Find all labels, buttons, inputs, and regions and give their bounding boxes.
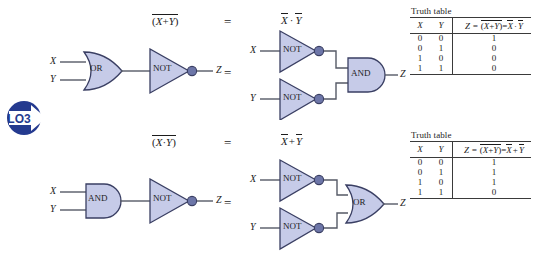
row1-expression-equals: = [224, 14, 231, 30]
figure-canvas: (X+Y) = X·Y X Y OR NOT Z = [0, 0, 543, 257]
row1-right-wire-bottom-route [324, 83, 349, 99]
row2-right-wire-bottom-route [324, 213, 348, 228]
row1-left-input-y-label: Y [50, 73, 56, 84]
row2-th-z-rhs-op: + [512, 145, 519, 155]
row2-not-top-label: NOT [283, 173, 302, 183]
inversion-bubble-icon-bottom [314, 94, 323, 103]
table-row: 0 0 1 [410, 158, 531, 169]
row1-and-gate-label: AND [351, 68, 371, 78]
row2-r3-y: 1 [430, 188, 453, 199]
row2-right-output-label: Z [400, 197, 406, 208]
table-row: 1 1 0 [410, 188, 531, 199]
row1-truth-table: Truth table X Y Z = (X+Y)=X·Y 0 0 1 0 1 … [410, 6, 531, 75]
row2-th-z-rhs-b: Y [519, 144, 524, 155]
row2-th-x: X [410, 142, 430, 158]
row2-r3-x: 1 [410, 188, 430, 199]
inversion-bubble-icon [187, 196, 196, 205]
inversion-bubble-icon-top [314, 46, 323, 55]
row2-right-input-y-label: Y [250, 221, 256, 232]
row1-rexpr-b: Y [295, 13, 301, 26]
row2-th-z: Z = (X+Y)=X+Y [453, 142, 532, 158]
row1-circuit-equals: = [224, 65, 231, 81]
table-row: 1 0 0 [410, 54, 531, 64]
lo3-badge-label: LO3 [7, 112, 31, 126]
row1-th-z-rhs-b: Y [518, 20, 523, 31]
row2-right-circuit: X Y NOT NOT OR Z [250, 157, 400, 256]
row1-right-circuit: X Y NOT NOT AND Z [250, 28, 400, 124]
table-row: 0 1 0 [410, 44, 531, 54]
row1-truth-table-caption: Truth table [410, 6, 531, 17]
row2-right-wire-top-route [324, 180, 348, 195]
row2-th-y: Y [430, 142, 453, 158]
row2-truth-table-grid: X Y Z = (X+Y)=X+Y 0 0 1 0 1 1 1 0 [410, 141, 531, 199]
row1-expr-paren-close: ) [175, 15, 179, 27]
row2-circuit-equals: = [224, 195, 231, 211]
row2-right-expression: X+Y [281, 134, 302, 147]
row1-left-circuit: X Y OR NOT Z [50, 48, 225, 102]
row2-right-input-x-label: X [250, 173, 256, 184]
row2-th-z-rhs-a: X [506, 144, 512, 155]
row2-expr-paren-close: ) [172, 136, 176, 148]
row2-not-gate-label: NOT [153, 193, 172, 203]
row1-right-input-y-label: Y [250, 92, 256, 103]
table-row: 1 0 1 [410, 178, 531, 188]
row2-or-gate-label: OR [353, 197, 366, 207]
row2-truth-table-header-row: X Y Z = (X+Y)=X+Y [410, 142, 531, 158]
row1-or-gate-label: OR [90, 63, 103, 73]
row2-rexpr-op: + [288, 135, 296, 147]
row1-th-x: X [410, 18, 430, 34]
lo3-badge: LO3 [4, 100, 50, 136]
row2-left-input-x-label: X [50, 185, 56, 196]
inversion-bubble-icon-bottom [314, 223, 323, 232]
inversion-bubble-icon [187, 66, 196, 75]
row1-rexpr-op: · [288, 14, 296, 26]
row2-left-output-label: Z [216, 194, 222, 205]
table-row: 1 1 0 [410, 64, 531, 75]
row1-r3-z: 0 [453, 64, 532, 75]
row1-right-wire-top-route [324, 51, 349, 68]
row2-not-bottom-label: NOT [283, 221, 302, 231]
row1-truth-table-header-row: X Y Z = (X+Y)=X·Y [410, 18, 531, 34]
row2-r3-z: 0 [453, 188, 532, 199]
row1-left-output-label: Z [216, 64, 222, 75]
row2-and-gate-label: AND [88, 193, 108, 203]
row1-not-gate-label: NOT [153, 63, 172, 73]
row2-left-circuit: X Y AND NOT Z [50, 178, 225, 232]
row2-left-expression: (X·Y) [152, 135, 176, 148]
row1-not-bottom-label: NOT [283, 92, 302, 102]
inversion-bubble-icon-top [314, 175, 323, 184]
row2-left-input-y-label: Y [50, 203, 56, 214]
row1-not-top-label: NOT [283, 44, 302, 54]
row2-th-z-prefix: Z = [464, 145, 480, 155]
row1-rexpr-a: X [281, 13, 288, 26]
row1-r3-x: 1 [410, 64, 430, 75]
row1-left-expression: (X+Y) [152, 14, 178, 27]
table-row: 0 0 1 [410, 34, 531, 45]
row1-right-output-label: Z [400, 68, 406, 79]
row1-th-y: Y [430, 18, 453, 34]
row2-truth-table: Truth table X Y Z = (X+Y)=X+Y 0 0 1 0 1 … [410, 130, 531, 199]
row2-expression-equals: = [224, 135, 231, 151]
table-row: 0 1 1 [410, 168, 531, 178]
row2-truth-table-caption: Truth table [410, 130, 531, 141]
row2-rexpr-a: X [281, 134, 288, 147]
row1-truth-table-grid: X Y Z = (X+Y)=X·Y 0 0 1 0 1 0 1 0 [410, 17, 531, 75]
row1-left-input-x-label: X [50, 55, 56, 66]
row1-r3-y: 1 [430, 64, 453, 75]
row1-th-z-prefix: Z = [465, 21, 481, 31]
row1-right-input-x-label: X [250, 44, 256, 55]
row2-rexpr-b: Y [296, 134, 302, 147]
row1-right-expression: X·Y [281, 13, 302, 26]
row1-th-z: Z = (X+Y)=X·Y [453, 18, 532, 34]
